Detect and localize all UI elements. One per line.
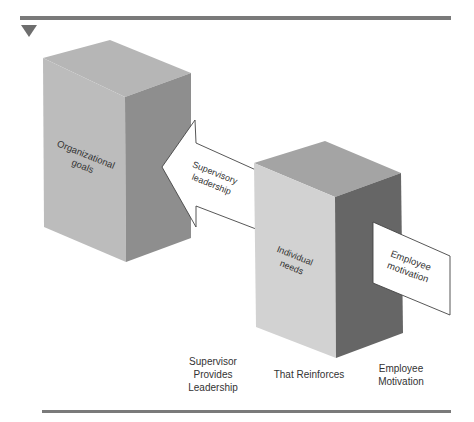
caption-supervisor-provides-leadership: Supervisor Provides Leadership — [178, 355, 248, 394]
caption-that-reinforces: That Reinforces — [264, 368, 354, 381]
bottom-rule — [42, 410, 451, 413]
triangle-marker-icon — [21, 25, 37, 37]
organizational-goals-box: Organizational goals — [43, 40, 191, 262]
caption-employee-motivation: Employee Motivation — [366, 362, 436, 388]
